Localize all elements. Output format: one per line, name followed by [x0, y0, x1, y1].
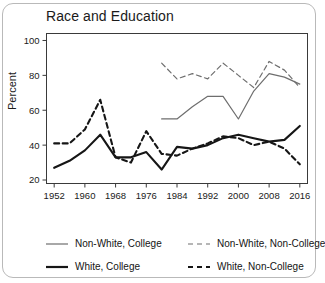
- plot-area: 20406080100 1952196019681976198419922000…: [0, 0, 323, 232]
- series-line: [54, 100, 300, 165]
- legend-swatch-icon: [46, 262, 68, 272]
- legend: Non-White, College Non-White, Non-Colleg…: [46, 232, 314, 278]
- svg-text:60: 60: [29, 105, 40, 116]
- svg-text:1984: 1984: [166, 190, 187, 201]
- legend-row: White, College White, Non-College: [46, 255, 314, 278]
- svg-text:1960: 1960: [74, 190, 95, 201]
- legend-item-non-white-college[interactable]: Non-White, College: [46, 238, 188, 249]
- plot-frame: [47, 34, 308, 184]
- svg-text:1992: 1992: [197, 190, 218, 201]
- legend-swatch-icon: [188, 239, 210, 249]
- legend-row: Non-White, College Non-White, Non-Colleg…: [46, 232, 314, 255]
- legend-label: White, College: [75, 261, 140, 272]
- legend-item-non-white-non-college[interactable]: Non-White, Non-College: [188, 238, 314, 249]
- data-series-layer: [54, 61, 300, 169]
- series-line: [162, 61, 300, 87]
- x-axis-ticks: 195219601968197619841992200020082016: [44, 184, 311, 201]
- series-line: [162, 74, 300, 119]
- legend-swatch-icon: [46, 239, 68, 249]
- legend-item-white-college[interactable]: White, College: [46, 261, 188, 272]
- series-line: [54, 126, 300, 170]
- legend-item-white-non-college[interactable]: White, Non-College: [188, 261, 314, 272]
- legend-label: White, Non-College: [217, 261, 304, 272]
- svg-text:2008: 2008: [259, 190, 280, 201]
- svg-text:2000: 2000: [228, 190, 249, 201]
- svg-text:100: 100: [24, 35, 40, 46]
- svg-text:1968: 1968: [105, 190, 126, 201]
- y-axis-ticks: 20406080100: [24, 35, 47, 186]
- svg-text:20: 20: [29, 174, 40, 185]
- legend-swatch-icon: [188, 262, 210, 272]
- svg-text:2016: 2016: [289, 190, 310, 201]
- svg-text:1976: 1976: [136, 190, 157, 201]
- legend-label: Non-White, College: [75, 238, 162, 249]
- svg-text:40: 40: [29, 140, 40, 151]
- legend-label: Non-White, Non-College: [217, 238, 325, 249]
- svg-text:80: 80: [29, 70, 40, 81]
- svg-text:1952: 1952: [44, 190, 65, 201]
